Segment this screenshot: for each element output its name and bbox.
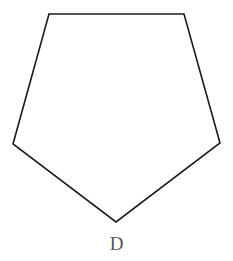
pentagon-diagram [0,0,233,261]
figure-canvas: D [0,0,233,261]
figure-label-d: D [0,233,233,255]
pentagon-outline [13,14,220,222]
